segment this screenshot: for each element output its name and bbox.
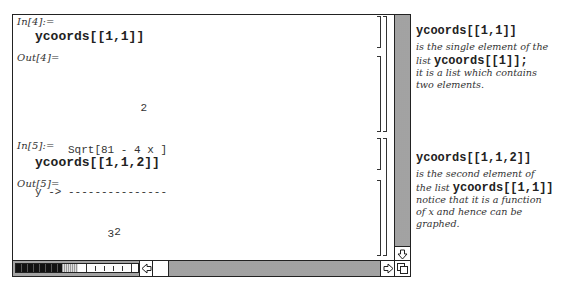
down-arrow-icon bbox=[397, 249, 408, 260]
annotation-2: ycoords[[1,1,2]] is the second element o… bbox=[416, 151, 584, 230]
annotation-text: of x and hence can be bbox=[416, 206, 584, 218]
annotation-inline-code: ycoords[[1]]; bbox=[434, 54, 528, 68]
notebook-content[interactable]: In[4]:= ycoords[[1,1]] Out[4]= 2 Sqrt[81… bbox=[13, 15, 393, 261]
ruler-tick bbox=[95, 266, 96, 271]
left-arrow-icon bbox=[141, 263, 152, 274]
group-cell-bracket[interactable] bbox=[383, 16, 387, 132]
scroll-left-button[interactable] bbox=[139, 261, 153, 276]
notebook-window: In[4]:= ycoords[[1,1]] Out[4]= 2 Sqrt[81… bbox=[12, 14, 411, 277]
output-cell-bracket[interactable] bbox=[377, 180, 381, 256]
annotation-text: two elements. bbox=[416, 79, 584, 91]
grow-box-icon bbox=[400, 266, 408, 274]
input-cell-bracket[interactable] bbox=[377, 16, 381, 48]
output-cell-bracket[interactable] bbox=[377, 56, 381, 132]
output-cell-5: 2 Sqrt[81 - 4 x ] --------------- 3 bbox=[35, 197, 134, 261]
input-cell-4[interactable]: ycoords[[1,1]] bbox=[35, 29, 144, 44]
ruler-tick bbox=[86, 264, 87, 272]
annotation-text-line: the list ycoords[[1,1]] bbox=[416, 182, 584, 194]
ruler-tick bbox=[122, 266, 123, 271]
in-label-5: In[5]:= bbox=[17, 140, 55, 151]
annotation-heading: ycoords[[1,1]] bbox=[416, 24, 584, 38]
ruler-fade bbox=[62, 264, 78, 272]
annotation-1: ycoords[[1,1]] is the single element of … bbox=[416, 24, 584, 91]
output-line: 2 bbox=[35, 225, 134, 239]
scroll-right-button[interactable] bbox=[380, 261, 395, 276]
group-cell-bracket[interactable] bbox=[383, 138, 387, 256]
scroll-down-button[interactable] bbox=[395, 246, 410, 261]
horizontal-scrollbar[interactable] bbox=[13, 260, 395, 276]
horizontal-scroll-thumb[interactable] bbox=[153, 261, 169, 276]
ruler-tick bbox=[131, 264, 132, 272]
annotation-text: the list bbox=[416, 182, 453, 193]
ruler-tick bbox=[104, 266, 105, 271]
out-label-5: Out[5]= bbox=[17, 178, 60, 189]
resize-grow-box[interactable] bbox=[394, 260, 410, 276]
ruler-fill bbox=[16, 264, 62, 272]
annotation-text: is the second element of bbox=[416, 168, 584, 180]
ruler-tick bbox=[113, 266, 114, 271]
annotation-text-line: list ycoords[[1]]; bbox=[416, 55, 584, 67]
output-line: 2 bbox=[35, 101, 167, 115]
zoom-ruler[interactable] bbox=[15, 263, 139, 273]
annotation-heading: ycoords[[1,1,2]] bbox=[416, 151, 584, 165]
annotation-text: list bbox=[416, 55, 434, 66]
annotation-text: notice that it is a function bbox=[416, 194, 584, 206]
in-label-4: In[4]:= bbox=[17, 16, 55, 27]
annotation-inline-code: ycoords[[1,1]] bbox=[453, 181, 554, 195]
annotation-text: it is a list which contains bbox=[416, 67, 584, 79]
right-arrow-icon bbox=[383, 263, 394, 274]
out-label-4: Out[4]= bbox=[17, 52, 60, 63]
vertical-scrollbar[interactable] bbox=[394, 15, 410, 261]
annotation-text: is the single element of the bbox=[416, 41, 584, 53]
annotation-text: graphed. bbox=[416, 218, 584, 230]
input-cell-bracket[interactable] bbox=[377, 138, 381, 170]
input-cell-5[interactable]: ycoords[[1,1,2]] bbox=[35, 155, 160, 170]
